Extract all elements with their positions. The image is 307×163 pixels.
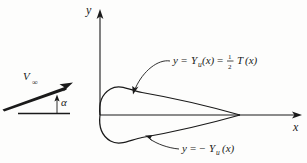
upper-surface-leader	[132, 61, 170, 95]
velocity-label: V ∞	[23, 70, 38, 87]
lower-eq-of-x: (x)	[222, 142, 235, 155]
upper-eq-fraction-denominator: 2	[228, 63, 232, 71]
upper-eq-equals-1: =	[181, 54, 187, 66]
upper-eq-of-x-2: (x)	[245, 54, 258, 67]
x-axis-label: x	[292, 120, 299, 134]
velocity-subscript: ∞	[32, 78, 38, 87]
lower-eq-equals: =	[190, 142, 196, 154]
upper-eq-T: T	[237, 54, 244, 66]
lower-eq-y: y	[181, 142, 187, 154]
upper-surface-equation: y = Y u (x) = 1 2 T (x)	[172, 53, 258, 71]
lower-surface-equation: y = − Y u (x)	[181, 142, 235, 157]
y-axis-label: y	[85, 3, 92, 17]
lower-surface-leader	[145, 135, 179, 149]
velocity-symbol: V	[23, 70, 31, 82]
lower-leader-arrowhead	[145, 135, 153, 141]
airfoil-figure: y x	[0, 0, 307, 163]
figure-canvas: y x	[0, 0, 307, 163]
upper-eq-fraction-numerator: 1	[228, 53, 232, 61]
upper-eq-equals-2: =	[217, 54, 223, 66]
airfoil-upper-surface	[100, 87, 240, 115]
lower-eq-Y-subscript: u	[216, 148, 220, 157]
lower-leader-line	[150, 139, 179, 149]
upper-eq-y: y	[172, 54, 178, 66]
angle-of-attack-label: α	[61, 96, 67, 108]
airfoil-lower-surface	[100, 115, 240, 143]
upper-eq-of-x-1: (x)	[202, 54, 215, 67]
lower-eq-minus: −	[199, 142, 205, 154]
upper-leader-line	[136, 61, 171, 88]
